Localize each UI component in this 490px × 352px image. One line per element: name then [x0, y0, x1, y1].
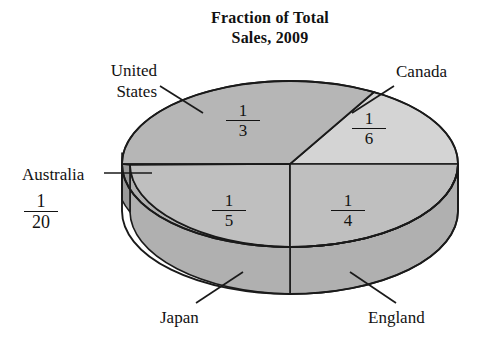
- value-japan-denominator: 5: [212, 210, 246, 229]
- label-japan: Japan: [160, 308, 199, 328]
- value-united-states-numerator: 1: [226, 102, 260, 120]
- value-england-numerator: 1: [331, 192, 365, 210]
- value-england: 1 4: [331, 192, 365, 229]
- value-england-denominator: 4: [331, 210, 365, 229]
- value-australia-denominator: 20: [24, 211, 58, 231]
- value-united-states: 1 3: [226, 102, 260, 139]
- label-australia: Australia: [22, 165, 84, 185]
- value-japan: 1 5: [212, 192, 246, 229]
- value-australia-numerator: 1: [24, 192, 58, 211]
- value-canada-numerator: 1: [352, 110, 386, 128]
- value-australia: 1 20: [24, 192, 58, 231]
- value-united-states-denominator: 3: [226, 120, 260, 139]
- label-england: England: [368, 308, 425, 328]
- label-united-states-line-1: United: [60, 60, 157, 81]
- label-canada: Canada: [396, 62, 447, 82]
- label-united-states: United States: [60, 60, 157, 102]
- value-canada-denominator: 6: [352, 128, 386, 147]
- pie-chart-figure: Fraction of Total Sales, 2009: [0, 0, 490, 352]
- label-united-states-line-2: States: [60, 81, 157, 102]
- value-canada: 1 6: [352, 110, 386, 147]
- value-japan-numerator: 1: [212, 192, 246, 210]
